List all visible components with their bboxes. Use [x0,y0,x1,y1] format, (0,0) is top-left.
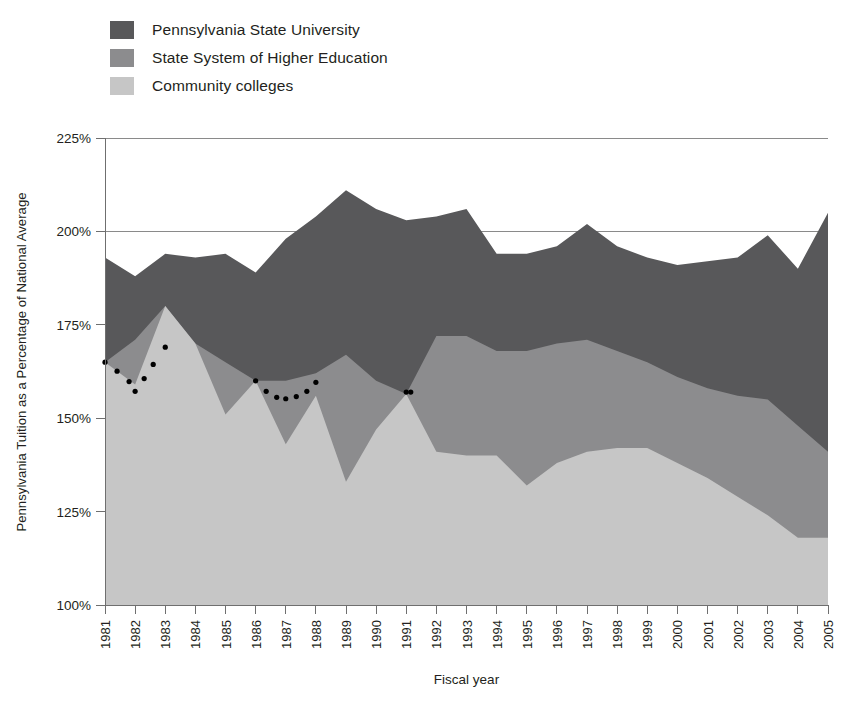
x-tick-label: 1992 [429,620,444,649]
x-tick-label: 1981 [98,620,113,649]
stacked-area-chart: 100%125%150%175%200%225% 198119821983198… [0,0,846,701]
x-tick-label: 1987 [279,620,294,649]
x-tick-label: 2005 [821,620,836,649]
x-tick-label: 1991 [399,620,414,649]
x-tick-label: 1985 [219,620,234,649]
x-tick-label: 2002 [731,620,746,649]
y-tick-label: 200% [56,224,91,239]
x-tick-label: 2003 [761,620,776,649]
y-tick-label: 125% [56,505,91,520]
x-tick-label: 1986 [249,620,264,649]
x-tick-label: 1996 [550,620,565,649]
x-tick-label: 1989 [339,620,354,649]
x-tick-label: 1994 [490,620,505,649]
x-tick-label: 1988 [309,620,324,649]
y-tick-label: 150% [56,411,91,426]
x-tick-labels: 1981198219831984198519861987198819891990… [98,620,836,649]
x-tick-label: 1993 [460,620,475,649]
x-tick-label: 1998 [610,620,625,649]
x-tick-label: 1995 [520,620,535,649]
x-tick-label: 1997 [580,620,595,649]
x-tick-label: 1982 [128,620,143,649]
x-tick-label: 2004 [791,620,806,649]
area-bands [105,190,828,605]
y-tick-label: 225% [56,131,91,146]
x-tick-label: 2000 [670,620,685,649]
x-tick-label: 1983 [158,620,173,649]
x-tick-label: 2001 [701,620,716,649]
chart-plot-area: 100%125%150%175%200%225% 198119821983198… [0,0,846,701]
x-tick-label: 1999 [640,620,655,649]
x-tick-label: 1990 [369,620,384,649]
x-tick-label: 1984 [188,620,203,649]
y-tick-label: 100% [56,598,91,613]
y-tick-label: 175% [56,318,91,333]
y-tick-labels: 100%125%150%175%200%225% [56,131,91,613]
